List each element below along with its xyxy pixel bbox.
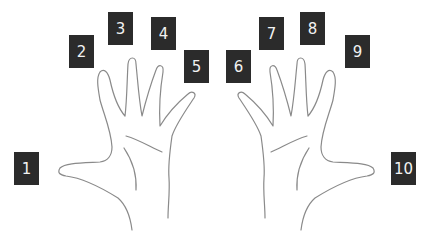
- finger-label-5: 5: [184, 50, 209, 83]
- finger-label-9: 9: [345, 35, 370, 68]
- right-palm-line-2: [297, 148, 309, 190]
- right-palm-line-1: [271, 136, 307, 152]
- left-hand-outline: [59, 58, 195, 230]
- left-palm-line-1: [126, 136, 162, 152]
- finger-label-3: 3: [108, 12, 133, 45]
- left-palm-line-2: [124, 148, 136, 190]
- left-hand: [59, 58, 195, 230]
- finger-label-10: 10: [391, 152, 416, 185]
- right-hand-outline: [238, 58, 374, 230]
- finger-label-1: 1: [14, 152, 39, 185]
- finger-label-4: 4: [151, 17, 176, 50]
- finger-label-8: 8: [300, 12, 325, 45]
- finger-label-6: 6: [226, 50, 251, 83]
- right-hand: [238, 58, 374, 230]
- finger-label-2: 2: [69, 35, 94, 68]
- finger-label-7: 7: [259, 17, 284, 50]
